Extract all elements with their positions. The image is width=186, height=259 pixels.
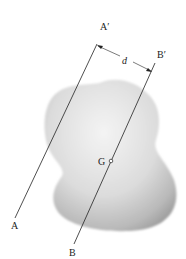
- label-a-prime: A′: [100, 21, 109, 32]
- label-distance-d: d: [122, 55, 128, 66]
- label-a: A: [11, 220, 19, 231]
- arrowhead-right-icon: [146, 68, 152, 72]
- label-b-prime: B′: [157, 49, 166, 60]
- label-centroid-g: G: [98, 156, 105, 167]
- centroid-marker: [109, 159, 113, 163]
- rigid-body: [45, 80, 177, 232]
- parallel-axis-diagram: A′ A B′ B d G: [0, 0, 186, 259]
- arrowhead-left-icon: [97, 45, 103, 49]
- label-b: B: [69, 247, 76, 258]
